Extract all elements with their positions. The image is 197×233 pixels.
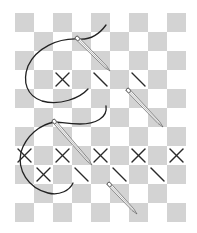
- grid-cell-shaded: [53, 165, 72, 184]
- grid-cell-shaded: [167, 51, 186, 70]
- grid-cell-shaded: [53, 203, 72, 222]
- grid-cell-shaded: [129, 13, 148, 32]
- grid-cell-shaded: [167, 165, 186, 184]
- grid-cell-shaded: [129, 127, 148, 146]
- cross-stitch: [170, 149, 183, 162]
- grid-cell-shaded: [110, 146, 129, 165]
- grid-cell-shaded: [110, 70, 129, 89]
- grid-cell-shaded: [15, 13, 34, 32]
- half-stitch: [132, 73, 145, 86]
- grid-cell-shaded: [148, 184, 167, 203]
- grid-cell-shaded: [91, 203, 110, 222]
- grid-cell-shaded: [129, 203, 148, 222]
- cross-stitch-illustration: Cross stitch illustration: [0, 0, 197, 233]
- stitch-diagram-canvas: [0, 0, 197, 233]
- grid-cell-shaded: [91, 165, 110, 184]
- half-stitch: [151, 168, 164, 181]
- grid-cell-shaded: [148, 108, 167, 127]
- grid-cell-shaded: [167, 127, 186, 146]
- grid-cell-shaded: [53, 51, 72, 70]
- grid-cell-shaded: [15, 89, 34, 108]
- grid-cell-shaded: [110, 32, 129, 51]
- cross-stitch: [56, 149, 69, 162]
- grid-cell-shaded: [34, 108, 53, 127]
- cross-stitch: [56, 73, 69, 86]
- grid-cell-shaded: [129, 165, 148, 184]
- grid-cell-shaded: [148, 146, 167, 165]
- grid-cell-shaded: [148, 32, 167, 51]
- grid-cell-shaded: [129, 51, 148, 70]
- grid-cell-shaded: [91, 89, 110, 108]
- grid-cell-shaded: [15, 203, 34, 222]
- grid-cell-shaded: [148, 70, 167, 89]
- grid-cell-shaded: [53, 13, 72, 32]
- grid-cell-shaded: [110, 108, 129, 127]
- cross-stitch: [94, 149, 107, 162]
- grid-cell-shaded: [167, 89, 186, 108]
- grid-cell-shaded: [91, 13, 110, 32]
- grid-cell-shaded: [34, 70, 53, 89]
- grid-cell-shaded: [34, 146, 53, 165]
- half-stitch: [94, 73, 107, 86]
- grid-cell-shaded: [72, 70, 91, 89]
- grid-cell-shaded: [72, 184, 91, 203]
- grid-cell-shaded: [167, 13, 186, 32]
- cross-stitch: [132, 149, 145, 162]
- half-stitch: [113, 168, 126, 181]
- grid-cell-shaded: [53, 89, 72, 108]
- grid-cell-shaded: [91, 127, 110, 146]
- cross-stitch: [37, 168, 50, 181]
- grid-cell-shaded: [167, 203, 186, 222]
- half-stitch: [75, 168, 88, 181]
